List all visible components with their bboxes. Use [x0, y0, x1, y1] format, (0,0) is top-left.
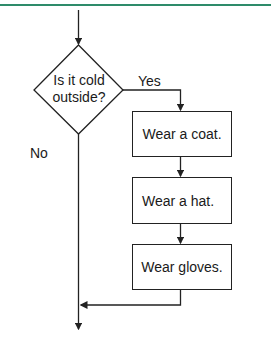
step-wear-gloves: Wear gloves.: [132, 244, 232, 290]
yes-connector: [123, 90, 181, 110]
no-label: No: [30, 145, 48, 161]
decision-line-1: Is it cold: [44, 72, 114, 89]
yes-label: Yes: [138, 73, 161, 89]
step-label: Wear a coat.: [142, 126, 221, 142]
step-label: Wear a hat.: [142, 193, 214, 209]
step-label: Wear gloves.: [141, 259, 222, 275]
step-wear-coat: Wear a coat.: [132, 111, 232, 157]
step-wear-hat: Wear a hat.: [132, 177, 232, 224]
merge-connector: [81, 290, 181, 305]
decision-line-2: outside?: [44, 89, 114, 106]
decision-text: Is it cold outside?: [44, 72, 114, 106]
